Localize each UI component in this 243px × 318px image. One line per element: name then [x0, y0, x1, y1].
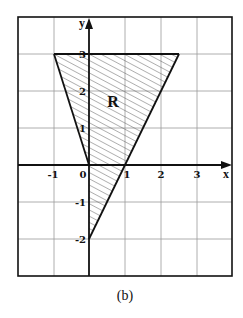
svg-text:-1: -1	[47, 169, 58, 180]
svg-text:2: 2	[158, 169, 165, 180]
figure-caption: (b)	[117, 288, 134, 304]
svg-text:-2: -2	[75, 234, 86, 245]
svg-text:3: 3	[194, 169, 201, 180]
svg-text:1: 1	[124, 169, 131, 180]
x-tick-labels: -1 0 1 2 3	[47, 169, 200, 180]
svg-text:-1: -1	[75, 197, 86, 208]
y-axis-arrow-icon	[85, 18, 93, 29]
region-label: R	[107, 93, 119, 110]
y-axis-label: y	[79, 16, 85, 30]
svg-text:0: 0	[80, 169, 87, 180]
svg-text:1: 1	[79, 123, 86, 134]
region-r	[54, 54, 179, 239]
svg-text:3: 3	[79, 49, 86, 60]
region-diagram: -1 0 1 2 3 3 2 1 -1 -2 x y R (b)	[0, 0, 243, 318]
svg-text:2: 2	[79, 86, 86, 97]
x-axis-label: x	[223, 167, 229, 181]
